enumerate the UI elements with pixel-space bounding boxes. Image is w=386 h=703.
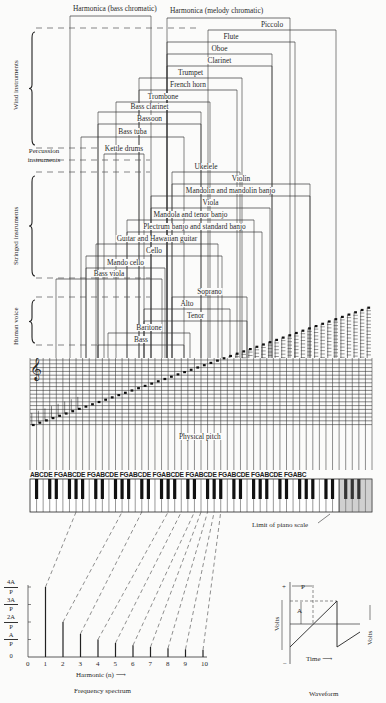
beyond-piano-range-shade [339,479,372,512]
limit-of-piano-scale-label: Limit of piano scale [252,522,308,529]
instrument-label: Alto [179,300,194,307]
note-head-icon [65,412,68,414]
harmonic-dashed-link [63,512,122,622]
instrument-label: Oboe [210,45,228,52]
note-head-icon [131,389,134,391]
black-key [186,479,189,499]
instrument-label: Mandolin and mandolin banjo [185,187,276,194]
spectrum-x-tick-label: 4 [96,661,100,668]
note-head-icon [117,394,120,396]
waveform-amplitude-label: A [297,608,302,615]
note-head-icon [157,380,160,382]
note-head-icon [223,357,226,359]
harmonic-dashed-link [203,512,221,650]
black-key [55,479,58,499]
brace-stringed-icon [29,176,35,276]
spectrum-x-tick-label: 3 [79,661,83,668]
note-head-icon [275,339,278,341]
physical-pitch-label: Physical pitch [178,433,222,440]
group-label-stringed: Stringed instruments [13,207,20,265]
black-key [120,479,123,499]
note-head-icon [137,387,140,389]
black-key [127,479,130,499]
note-head-icon [45,419,48,421]
note-head-icon [177,373,180,375]
harmonic-dashed-link [46,512,77,587]
note-head-icon [98,401,101,403]
waveform-period-label: P [301,584,305,591]
note-head-icon [124,392,127,394]
note-head-icon [236,353,239,355]
spectrum-y-tick-label: 0 [4,653,18,660]
black-key [94,479,97,499]
black-key [193,479,196,499]
black-key [167,479,170,499]
waveform-title: Waveform [309,691,338,698]
black-key [81,479,84,499]
note-head-icon [282,337,285,339]
instrument-label: Bass tuba [117,128,148,135]
spectrum-y-tick-label: AP [4,632,18,648]
instrument-label: Bassoon [136,115,163,122]
instrument-label: Bass clarinet [130,103,170,110]
harmonic-dashed-link [151,512,202,647]
note-head-icon [203,364,206,366]
black-key [173,479,176,499]
instrument-label: Violin [231,175,251,182]
instrument-label: Harmonica (bass chromatic) [72,5,158,12]
note-head-icon [302,330,305,332]
spectrum-title: Frequency spectrum [74,688,131,695]
group-label-wind: Wind instruments [13,60,20,110]
brace-voice-icon [29,300,35,343]
note-head-icon [111,396,114,398]
group-label-percussion: Percussion instruments [24,147,64,165]
note-head-icon [32,424,35,426]
spectrum-x-tick-label: 7 [149,661,153,668]
note-head-icon [52,417,55,419]
note-head-icon [150,383,153,385]
instrument-label: Flute [222,33,239,40]
instrument-label: Viola [202,199,220,206]
note-head-icon [334,318,337,320]
black-key [305,479,308,499]
spectrum-x-tick-label: 8 [166,661,170,668]
brace-wind-icon [29,32,35,145]
instrument-label: Harmonica (melody chromatic) [169,7,264,14]
note-head-icon [196,366,199,368]
spectrum-x-tick-label: 10 [201,661,208,668]
black-key [298,479,301,499]
note-head-icon [104,399,107,401]
note-head-icon [229,355,232,357]
black-key [48,479,51,499]
note-head-icon [308,327,311,329]
harmonic-dashed-link [168,512,208,648]
black-key [331,479,334,499]
note-head-icon [58,415,61,417]
note-head-icon [269,341,272,343]
black-key [160,479,163,499]
note-head-icon [38,422,41,424]
note-head-icon [256,346,259,348]
spectrum-y-tick-label: 3AP [4,597,18,613]
waveform-time-label: Time ⟶ [306,656,332,663]
spectrum-y-tick-label: 4AP [4,579,18,595]
black-key [311,479,314,499]
key-names: ABCDE FGABCDE FGABCDE FGABCDE FGABCDE FG… [30,471,372,478]
instrument-label: Plectrum banjo and standard banjo [142,223,247,230]
instrument-label: Ukelele [194,163,219,170]
spectrum-x-tick-label: 2 [61,661,65,668]
black-key [140,479,143,499]
black-key [278,479,281,499]
treble-clef-icon: 𝄞 [30,358,42,378]
note-head-icon [321,323,324,325]
note-head-icon [367,307,370,309]
note-head-icon [295,332,298,334]
waveform-volts-left: Volts [274,617,281,631]
instrument-label: Clarinet [207,57,233,64]
instrument-label: Kettle drums [104,145,144,152]
instrument-label: Guitar and Hawaiian guitar [116,235,199,242]
instrument-label: Tenor [186,312,205,319]
instrument-label: Mandola and tenor banjo [152,211,228,218]
instrument-label: Trombone [147,93,180,100]
black-key [259,479,262,499]
